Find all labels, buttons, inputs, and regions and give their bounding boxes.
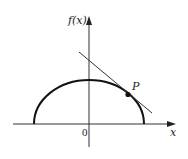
tangent-line xyxy=(79,52,152,113)
y-axis-label: f(x) xyxy=(67,14,87,27)
diagram-canvas: f(x) x 0 P xyxy=(0,0,188,159)
point-p xyxy=(125,92,130,97)
y-axis-arrow-icon xyxy=(86,16,92,25)
origin-label: 0 xyxy=(82,126,88,138)
point-p-label: P xyxy=(131,80,140,93)
x-axis-label: x xyxy=(170,126,177,139)
